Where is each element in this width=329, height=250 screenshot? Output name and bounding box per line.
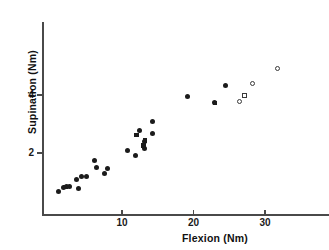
- x-axis-title: Flexion (Nm): [182, 232, 322, 244]
- data-point-circle-filled: [185, 94, 190, 99]
- x-tick-label: 30: [255, 218, 275, 228]
- data-point-circle-filled: [94, 165, 99, 170]
- data-point-square-filled: [141, 143, 146, 148]
- data-point-circle-filled: [105, 166, 110, 171]
- x-axis-line: [42, 214, 329, 216]
- data-point-circle-filled: [102, 171, 107, 176]
- x-tick-label: 10: [112, 218, 132, 228]
- data-point-circle-open: [250, 81, 255, 86]
- x-tick-mark: [193, 210, 194, 215]
- data-point-circle-filled: [150, 119, 155, 124]
- data-point-circle-filled: [84, 174, 89, 179]
- data-point-square-filled: [213, 101, 218, 106]
- data-point-circle-open: [237, 99, 242, 104]
- data-point-circle-filled: [125, 148, 130, 153]
- x-tick-label: 20: [184, 218, 204, 228]
- data-point-circle-open: [275, 66, 280, 71]
- data-point-circle-filled: [92, 158, 97, 163]
- data-point-square-filled: [63, 185, 68, 190]
- x-tick-mark: [121, 210, 122, 215]
- data-point-square-filled: [134, 133, 139, 138]
- data-point-square-filled: [143, 138, 148, 143]
- data-point-square-open: [242, 93, 247, 98]
- data-point-circle-filled: [74, 177, 79, 182]
- data-point-circle-filled: [133, 153, 138, 158]
- data-point-circle-filled: [150, 131, 155, 136]
- x-tick-mark: [264, 210, 265, 215]
- y-axis-title: Supination (Nm): [26, 17, 38, 167]
- data-point-circle-filled: [56, 189, 61, 194]
- y-axis-line: [42, 22, 44, 215]
- data-point-circle-filled: [223, 83, 228, 88]
- data-point-circle-filled: [76, 186, 81, 191]
- scatter-plot-figure: 10203024 Supination (Nm) Flexion (Nm): [0, 0, 329, 250]
